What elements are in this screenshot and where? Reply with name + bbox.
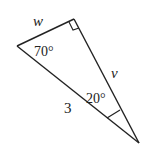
label-angle-20: 20°	[86, 91, 106, 106]
label-w: w	[33, 13, 43, 29]
label-hypotenuse-3: 3	[64, 100, 72, 116]
angle-arc-bottom	[107, 110, 120, 118]
label-v: v	[111, 65, 118, 81]
hypotenuse	[17, 46, 139, 143]
label-angle-70: 70°	[34, 44, 54, 59]
side-w	[17, 19, 74, 46]
side-v	[74, 19, 139, 143]
right-triangle-diagram: w 70° v 20° 3	[0, 0, 144, 145]
